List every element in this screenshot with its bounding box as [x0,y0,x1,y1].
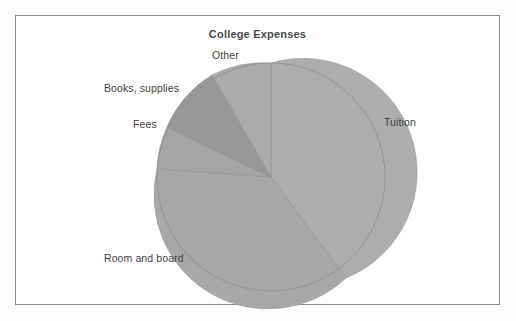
pie-label-tuition: Tuition [384,116,416,128]
chart-frame: College Expenses Other Books, sup [15,15,500,305]
figure-canvas: College Expenses Other Books, sup [0,0,516,321]
pie-label-other: Other [212,49,239,61]
pie-label-books-supplies: Books, supplies [104,82,179,94]
pie-label-room-and-board: Room and board [104,252,184,264]
pie-chart [16,16,501,306]
pie-label-fees: Fees [133,118,157,130]
plot-area: Other Books, supplies Fees Room and boar… [16,16,501,306]
